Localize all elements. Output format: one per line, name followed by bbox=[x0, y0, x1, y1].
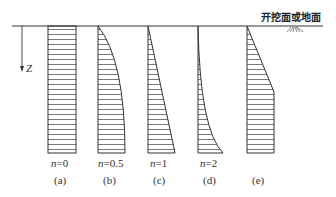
panel-e-caption: (e) bbox=[252, 174, 265, 187]
panel-a-caption: (a) bbox=[54, 174, 67, 187]
panel-e-shape bbox=[247, 26, 274, 153]
panel-d-caption: (d) bbox=[203, 174, 216, 187]
z-axis-arrow-icon bbox=[20, 26, 24, 72]
panel-c-caption: (c) bbox=[153, 174, 166, 187]
ground-hatch-icon bbox=[287, 27, 303, 32]
panel-b-shape bbox=[98, 26, 125, 153]
panel-a-shape bbox=[48, 26, 76, 153]
panel-b-caption: (b) bbox=[103, 174, 116, 187]
panel-b-n-label: n=0.5 bbox=[98, 157, 124, 169]
panel-a-n-label: n=0 bbox=[51, 157, 69, 169]
panel-c-shape bbox=[148, 26, 175, 153]
panel-d-shape bbox=[198, 26, 223, 153]
z-axis-label: Z bbox=[26, 62, 33, 74]
pressure-distribution-diagram: 开挖面或地面 Z n=0 n=0.5 n=1 n=2 bbox=[0, 0, 336, 197]
panel-d-n-label: n=2 bbox=[200, 157, 217, 169]
ground-label: 开挖面或地面 bbox=[261, 11, 321, 23]
panel-c-n-label: n=1 bbox=[150, 157, 167, 169]
